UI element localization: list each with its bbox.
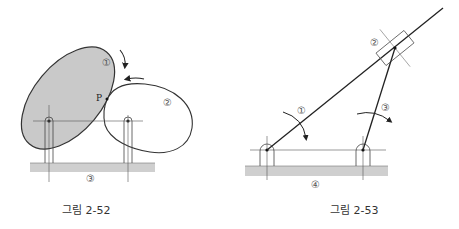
ground-bar [245,166,388,176]
label-ground-4: ④ [311,179,320,190]
label-ground-3: ③ [86,173,95,184]
diagram-canvas: P ① ② ③ 그림 2-52 [0,0,459,229]
label-cam-1: ① [102,57,111,68]
contact-point-label: P [96,93,102,103]
cam-2-outline [104,84,192,153]
caption-fig-2-52: 그림 2-52 [62,204,110,217]
link-3 [363,48,395,150]
label-slider-2: ② [370,37,379,48]
figure-2-52: P ① ② ③ 그림 2-52 [3,30,192,217]
contact-point-p [106,98,109,101]
figure-2-53: ① ② ③ ④ 그림 2-53 [245,8,443,217]
rotation-arrow-cam-1 [120,50,125,66]
caption-fig-2-53: 그림 2-53 [330,204,378,217]
link-1 [267,8,443,150]
label-cam-2: ② [163,97,172,108]
rotation-arrow-cam-2 [127,78,144,79]
label-link-1: ① [297,105,306,116]
label-link-3: ③ [381,102,390,113]
